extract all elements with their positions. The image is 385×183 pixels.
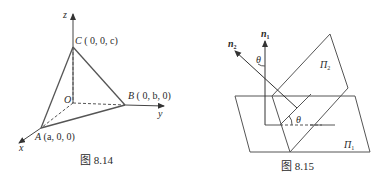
- point-b-label: B ( 0, b, 0): [128, 90, 171, 102]
- figure-caption-8-14: 图 8.14: [80, 154, 114, 166]
- edge-cb: [73, 47, 125, 105]
- figure-8-14-labels: z C ( 0, 0, c) O B ( 0, b, 0) y A (a, 0,…: [18, 9, 171, 166]
- z-axis-label: z: [62, 9, 67, 20]
- y-axis: [125, 105, 164, 106]
- edge-ab: [41, 105, 125, 128]
- figure-caption-8-15: 图 8.15: [281, 160, 315, 172]
- point-c-label: C ( 0, 0, c): [75, 35, 118, 47]
- x-axis-label: x: [18, 142, 24, 153]
- figure-8-14: [19, 14, 164, 143]
- n2-label: n2: [228, 38, 237, 50]
- origin-label: O: [64, 94, 71, 105]
- theta-label-top: θ: [256, 54, 261, 65]
- n1-label: n1: [261, 28, 270, 40]
- theta-label-bottom: θ: [296, 114, 301, 125]
- figures-canvas: z C ( 0, 0, c) O B ( 0, b, 0) y A (a, 0,…: [0, 0, 385, 183]
- point-a-label: A (a, 0, 0): [34, 131, 75, 143]
- y-axis-label: y: [157, 108, 163, 119]
- plane-pi2-label: Π2: [319, 59, 330, 71]
- figure-8-15: [235, 34, 370, 152]
- hidden-edge-ob: [73, 103, 125, 105]
